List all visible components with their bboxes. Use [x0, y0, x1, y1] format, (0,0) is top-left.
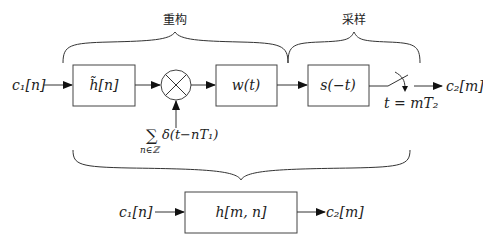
- output-label: c₂[m]: [446, 78, 483, 94]
- s-label: s(−t): [320, 77, 355, 93]
- h-tilde-label: h̃[n]: [90, 76, 119, 93]
- reconstruction-brace: [63, 32, 288, 63]
- equivalence-brace: [73, 150, 410, 180]
- input-label: c₁[n]: [12, 77, 46, 93]
- sum-subscript: n∈ℤ: [140, 145, 160, 155]
- impulse-train-label: ∑ n∈ℤ δ(t−nT₁): [140, 126, 218, 155]
- sampling-brace: [288, 32, 420, 63]
- sampler-switch-icon: [369, 72, 408, 92]
- w-label: w(t): [232, 77, 261, 93]
- delta-expression: δ(t−nT₁): [162, 127, 218, 142]
- equiv-input-label: c₁[n]: [119, 204, 153, 220]
- sum-symbol: ∑: [146, 126, 158, 145]
- equiv-output-label: c₂[m]: [326, 204, 364, 220]
- multiplier-icon: [161, 70, 191, 100]
- reconstruction-label: 重构: [163, 12, 187, 27]
- block-diagram: 重构 采样 c₁[n] h̃[n] ∑ n∈ℤ δ(t−nT₁) w(t) s(…: [0, 0, 483, 246]
- sampler-label: t = mT₂: [384, 95, 439, 111]
- sampling-label: 采样: [342, 12, 366, 27]
- h-mn-label: h[m, n]: [215, 204, 267, 220]
